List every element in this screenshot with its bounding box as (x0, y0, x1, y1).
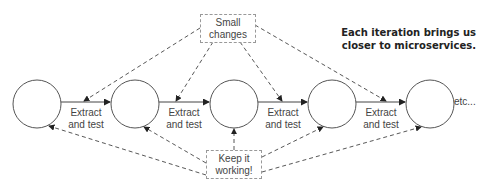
step-2-line1: Extract (162, 107, 206, 119)
step-4-line2: and test (359, 119, 403, 131)
node-1 (13, 80, 61, 128)
step-label-2: Extract and test (162, 107, 206, 131)
keep-working-line1: Keep it (207, 153, 261, 165)
dashed-keep-5 (262, 127, 421, 172)
step-label-1: Extract and test (64, 107, 108, 131)
node-2 (111, 80, 159, 128)
small-changes-line1: Small (201, 17, 255, 29)
step-label-3: Extract and test (261, 107, 305, 131)
note-line2: closer to microservices. (330, 39, 476, 52)
step-label-4: Extract and test (359, 107, 403, 131)
dashed-small-2 (176, 42, 213, 101)
dashed-keep-1 (49, 126, 206, 175)
node-5 (406, 80, 454, 128)
etc-label: etc... (454, 96, 476, 108)
small-changes-box: Small changes (200, 14, 256, 43)
step-1-line1: Extract (64, 107, 108, 119)
keep-working-box: Keep it working! (206, 150, 262, 179)
note-line1: Each iteration brings us (330, 26, 476, 39)
step-3-line1: Extract (261, 107, 305, 119)
small-changes-line2: changes (201, 29, 255, 41)
step-3-line2: and test (261, 119, 305, 131)
step-4-line1: Extract (359, 107, 403, 119)
step-1-line2: and test (64, 119, 108, 131)
keep-working-line2: working! (207, 165, 261, 177)
node-3 (210, 80, 258, 128)
step-2-line2: and test (162, 119, 206, 131)
iteration-note: Each iteration brings us closer to micro… (330, 26, 476, 52)
dashed-keep-4 (262, 127, 323, 157)
node-4 (308, 80, 356, 128)
dashed-keep-2 (144, 127, 206, 163)
